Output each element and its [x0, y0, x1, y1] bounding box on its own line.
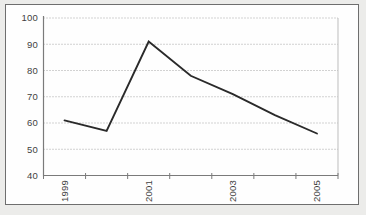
y-axis-tick-label: 50: [27, 144, 38, 155]
y-axis-tick-label: 80: [27, 65, 38, 76]
y-axis-tick-label: 60: [27, 117, 38, 128]
scanned-page-background: 4050607080901001999200120032005: [0, 0, 366, 215]
data-line-series: [65, 42, 317, 134]
x-axis-tick-label: 2005: [311, 180, 322, 202]
y-axis-tick-label: 70: [27, 91, 38, 102]
line-chart: 4050607080901001999200120032005: [0, 0, 366, 215]
x-axis-tick-label: 2003: [227, 180, 238, 202]
y-axis-tick-label: 100: [22, 12, 38, 23]
y-axis-tick-label: 90: [27, 39, 38, 50]
x-axis-tick-label: 1999: [59, 180, 70, 202]
x-axis-tick-label: 2001: [143, 180, 154, 202]
y-axis-tick-label: 40: [27, 170, 38, 181]
